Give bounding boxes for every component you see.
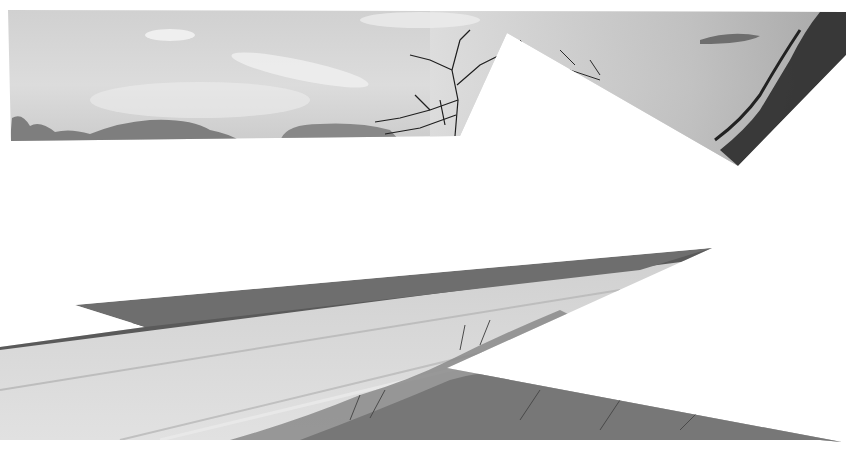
road-region <box>0 240 866 450</box>
sky-region <box>0 0 866 170</box>
photo-canvas: Black and white photograph of a cloudy s… <box>0 0 866 461</box>
masked-photograph <box>0 0 866 461</box>
